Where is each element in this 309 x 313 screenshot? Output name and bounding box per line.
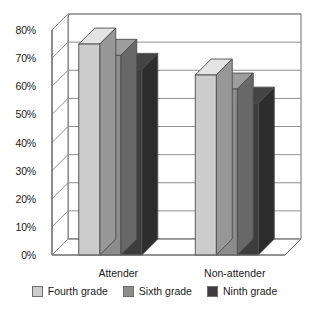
bar-side-face: [142, 53, 158, 255]
x-axis-tick-label: Attender: [98, 268, 138, 279]
legend-item[interactable]: Fourth grade: [32, 286, 108, 297]
legend-item-label: Sixth grade: [139, 286, 192, 297]
legend-item-label: Ninth grade: [223, 286, 277, 297]
chart-legend: Fourth gradeSixth gradeNinth grade: [0, 286, 309, 297]
bar-chart: 0%10%20%30%40%50%60%70%80% AttenderNon-a…: [0, 0, 309, 313]
legend-item[interactable]: Ninth grade: [207, 286, 277, 297]
bar-side-face: [216, 59, 232, 255]
bar-side-face: [100, 28, 116, 255]
bar-side-face: [258, 87, 274, 255]
bar-front-face: [79, 44, 100, 255]
legend-color-swatch: [207, 286, 218, 297]
bar-side-face: [237, 73, 253, 255]
legend-color-swatch: [32, 286, 43, 297]
bar-front-face: [195, 75, 216, 255]
legend-color-swatch: [123, 286, 134, 297]
legend-item[interactable]: Sixth grade: [123, 286, 192, 297]
x-axis-tick-label: Non-attender: [204, 268, 265, 279]
legend-item-label: Fourth grade: [48, 286, 108, 297]
bar: [195, 59, 232, 255]
bar-side-face: [121, 39, 137, 255]
bar: [79, 28, 116, 255]
